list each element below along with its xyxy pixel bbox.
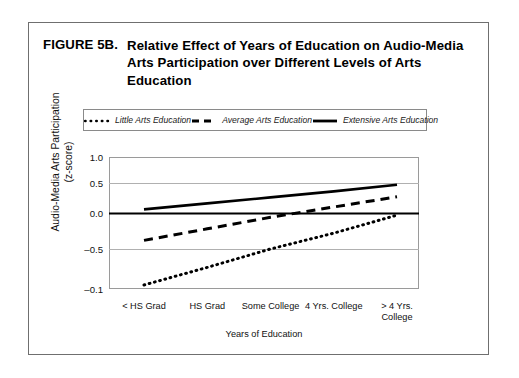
y-tick-label: –0.1	[69, 284, 103, 295]
legend-label-little: Little Arts Education	[115, 115, 191, 125]
x-tick-label: Some College	[242, 301, 300, 312]
x-tick-label: > 4 Yrs.College	[381, 301, 413, 323]
dashed-line-icon	[191, 118, 217, 122]
y-tick-label: 1.0	[69, 152, 103, 163]
legend-item-extensive: Extensive Arts Education	[312, 115, 438, 125]
legend-item-average: Average Arts Education	[191, 115, 312, 125]
x-tick-label: 4 Yrs. College	[305, 301, 363, 312]
figure-title-block: FIGURE 5B. Relative Effect of Years of E…	[43, 37, 474, 89]
x-tick-label: HS Grad	[189, 301, 225, 312]
x-axis-title: Years of Education	[109, 329, 419, 339]
legend-item-little: Little Arts Education	[84, 115, 191, 125]
y-tick-label: –0.5	[69, 244, 103, 255]
page-title: Relative Effect of Years of Education on…	[127, 37, 474, 89]
chart-canvas	[109, 157, 419, 289]
y-axis-title-main: Audio-Media Arts Participation	[50, 92, 61, 231]
chart-legend: Little Arts Education Average Arts Educa…	[83, 109, 427, 131]
y-tick-label: 0.0	[69, 208, 103, 219]
plot-area	[109, 157, 419, 289]
y-axis-tick-labels: 1.00.50.0–0.5–0.1	[65, 157, 103, 289]
x-axis-tick-labels: < HS GradHS GradSome College4 Yrs. Colle…	[109, 295, 419, 329]
y-tick-label: 0.5	[69, 178, 103, 189]
figure-card: FIGURE 5B. Relative Effect of Years of E…	[28, 22, 489, 355]
x-tick-label: < HS Grad	[122, 301, 166, 312]
dotted-line-icon	[84, 118, 110, 122]
solid-line-icon	[312, 118, 338, 122]
figure-number: FIGURE 5B.	[43, 37, 127, 52]
legend-label-average: Average Arts Education	[222, 115, 312, 125]
legend-label-extensive: Extensive Arts Education	[343, 115, 438, 125]
